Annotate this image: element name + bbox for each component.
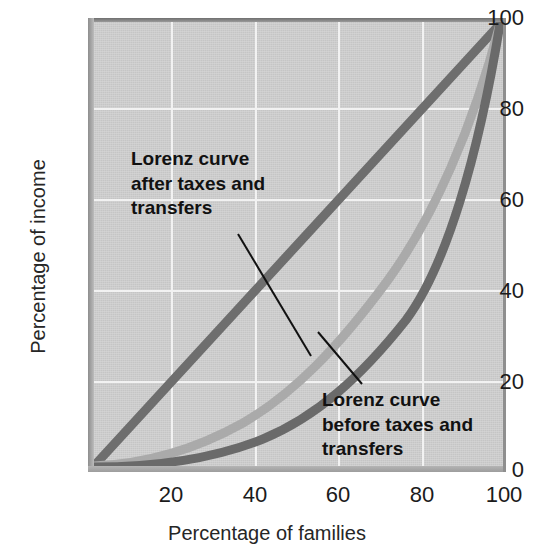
y-tick-label-0: 0 bbox=[452, 459, 534, 481]
y-tick-label-60: 60 bbox=[452, 189, 534, 211]
annotation-after-line1: Lorenz curve bbox=[131, 147, 346, 172]
lorenz-curve-figure: 100 80 60 40 20 0 20 40 60 80 100 Percen… bbox=[0, 0, 534, 555]
annotation-lorenz-after-taxes: Lorenz curve after taxes and transfers bbox=[131, 147, 346, 221]
x-axis-title: Percentage of families bbox=[0, 522, 534, 545]
y-axis-title: Percentage of income bbox=[27, 127, 50, 387]
plot-border-top bbox=[88, 18, 506, 22]
y-tick-label-80: 80 bbox=[452, 98, 534, 120]
annotation-before-line2: before taxes and bbox=[322, 413, 522, 438]
plot-border-left bbox=[88, 18, 94, 472]
annotation-before-line1: Lorenz curve bbox=[322, 388, 522, 413]
x-tick-label-100: 100 bbox=[464, 484, 534, 506]
annotation-after-line3: transfers bbox=[131, 196, 346, 221]
annotation-before-line3: transfers bbox=[322, 437, 522, 462]
annotation-after-line2: after taxes and bbox=[131, 172, 346, 197]
y-tick-label-40: 40 bbox=[452, 280, 534, 302]
x-tick-label-40: 40 bbox=[215, 484, 295, 506]
y-tick-label-100: 100 bbox=[452, 7, 534, 29]
x-tick-label-80: 80 bbox=[382, 484, 462, 506]
annotation-lorenz-before-taxes: Lorenz curve before taxes and transfers bbox=[322, 388, 522, 462]
x-tick-label-60: 60 bbox=[298, 484, 378, 506]
x-tick-label-20: 20 bbox=[131, 484, 211, 506]
plot-border-bottom bbox=[88, 466, 506, 472]
